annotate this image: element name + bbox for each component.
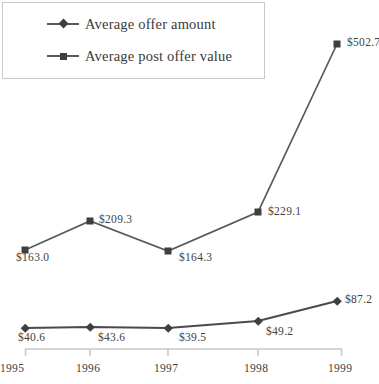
data-point-marker — [87, 218, 94, 225]
data-label: $229.1 — [268, 205, 301, 217]
data-label: $40.6 — [18, 331, 45, 343]
series-line-offer-amount — [25, 301, 337, 328]
x-axis-tick-label: 1998 — [244, 362, 268, 374]
plot-area — [0, 0, 379, 384]
x-axis-tick-label: 1997 — [154, 362, 178, 374]
x-axis-tick-label: 1999 — [328, 362, 352, 374]
x-axis-tick-label: 1996 — [76, 362, 100, 374]
data-point-marker — [255, 209, 262, 216]
data-point-marker — [254, 317, 263, 326]
data-label: $43.6 — [98, 331, 125, 343]
data-point-marker — [165, 248, 172, 255]
data-label: $87.2 — [345, 293, 372, 305]
data-label: $502.7 — [347, 36, 379, 48]
data-label: $49.2 — [266, 325, 293, 337]
x-axis — [25, 349, 342, 356]
data-point-marker — [334, 41, 341, 48]
chart-canvas: Average offer amount Average post offer … — [0, 0, 379, 384]
x-axis-tick-label: 1995 — [0, 362, 24, 374]
data-point-marker — [333, 297, 342, 306]
data-label: $209.3 — [99, 213, 132, 225]
data-label: $163.0 — [16, 251, 49, 263]
data-point-marker — [86, 323, 95, 332]
series-line-post-offer-value — [25, 44, 337, 251]
data-label: $164.3 — [179, 251, 212, 263]
data-point-marker — [164, 324, 173, 333]
data-label: $39.5 — [179, 331, 206, 343]
